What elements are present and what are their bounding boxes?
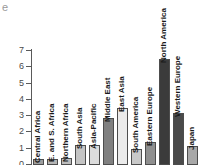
bar-label: South America bbox=[132, 97, 140, 153]
y-tick-label: 3 bbox=[2, 111, 24, 120]
bar[interactable] bbox=[173, 113, 184, 165]
y-tick-label: 4 bbox=[2, 95, 24, 104]
bar[interactable] bbox=[159, 59, 170, 165]
y-tick-mark bbox=[26, 115, 31, 116]
y-tick-label: 1 bbox=[2, 144, 24, 153]
y-axis-line bbox=[31, 49, 32, 165]
bar-label: South Asia bbox=[76, 107, 84, 148]
y-tick-label-wrap: 3 bbox=[0, 111, 24, 120]
y-tick-label-wrap: 6 bbox=[0, 62, 24, 71]
bar-label: Eastern Europe bbox=[146, 87, 154, 146]
chart-figure: e 01234567 Central AfricaE. and S. Afric… bbox=[0, 0, 217, 165]
y-tick-label-wrap: 0 bbox=[0, 160, 24, 165]
y-tick-mark bbox=[26, 164, 31, 165]
bar-label: Northern Africa bbox=[62, 103, 70, 161]
y-tick-label: 0 bbox=[2, 160, 24, 165]
y-tick-label-wrap: 4 bbox=[0, 95, 24, 104]
y-tick-label-wrap: 1 bbox=[0, 144, 24, 153]
bar[interactable] bbox=[103, 118, 114, 165]
y-tick-mark bbox=[26, 148, 31, 149]
y-tick-mark bbox=[26, 83, 31, 84]
y-tick-label: 7 bbox=[2, 46, 24, 55]
y-tick-mark bbox=[26, 99, 31, 100]
y-tick-label: 6 bbox=[2, 62, 24, 71]
y-tick-label: 5 bbox=[2, 79, 24, 88]
y-tick-mark bbox=[26, 131, 31, 132]
y-tick-label-wrap: 2 bbox=[0, 127, 24, 136]
bar-label: Western Europe bbox=[174, 56, 182, 117]
bar[interactable] bbox=[117, 108, 128, 165]
bar-label: Middle East bbox=[104, 77, 112, 121]
y-tick-label-wrap: 5 bbox=[0, 79, 24, 88]
bar-label: Central Africa bbox=[34, 111, 42, 163]
bar-label: East Asia bbox=[118, 76, 126, 112]
bar-chart-plot: 01234567 Central AfricaE. and S. AfricaN… bbox=[0, 0, 217, 165]
y-tick-label-wrap: 7 bbox=[0, 46, 24, 55]
bar-label: Japan bbox=[188, 127, 196, 150]
y-tick-label: 2 bbox=[2, 127, 24, 136]
y-tick-mark bbox=[26, 50, 31, 51]
y-tick-mark bbox=[26, 66, 31, 67]
bar-label: North America bbox=[160, 8, 168, 63]
bar-label: E. and S. Africa bbox=[48, 104, 56, 162]
bar-label: Asia-Pacific bbox=[90, 104, 98, 149]
